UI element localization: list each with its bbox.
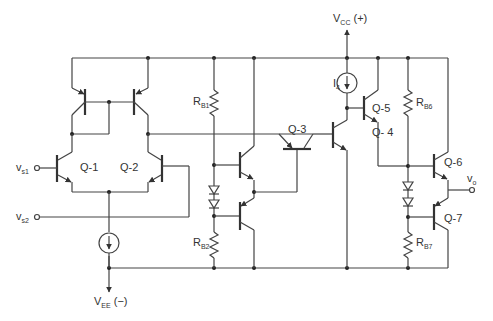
q5-label: Q-5 — [372, 102, 390, 114]
bias-network-1 — [209, 58, 219, 268]
vee-rail — [107, 256, 448, 292]
q3-label: Q-3 — [288, 123, 306, 135]
transistor-q1 — [57, 134, 72, 192]
q2-label: Q-2 — [120, 161, 138, 173]
q4-label: Q- 4 — [372, 126, 393, 138]
rb7-label: RB7 — [416, 236, 433, 250]
bias-network-2 — [403, 58, 413, 268]
rb1-label: RB1 — [193, 95, 210, 109]
vs2-label: vs2 — [16, 210, 29, 224]
output-driver — [333, 58, 408, 268]
circuit-schematic: VCC (+) VEE (−) Q-1 — [0, 0, 493, 321]
q7-label: Q-7 — [444, 212, 462, 224]
output-vo[interactable] — [470, 188, 475, 193]
current-mirror — [70, 58, 313, 136]
input-vs2[interactable] — [35, 215, 190, 220]
transistor-q3 — [279, 134, 333, 149]
rb6-label: RB6 — [416, 96, 433, 110]
vcc-rail — [72, 30, 448, 60]
rb2-label: RB2 — [193, 236, 210, 250]
input-vs1[interactable] — [35, 166, 58, 171]
transistor-q2 — [148, 134, 189, 217]
vcc-label: VCC (+) — [333, 12, 367, 26]
vee-label: VEE (−) — [94, 295, 128, 309]
darlington-stage — [214, 58, 297, 268]
vs1-label: vs1 — [16, 161, 29, 175]
vo-label: vo — [467, 172, 477, 186]
q6-label: Q-6 — [444, 156, 462, 168]
q1-label: Q-1 — [80, 161, 98, 173]
tail-current-source — [72, 190, 148, 268]
